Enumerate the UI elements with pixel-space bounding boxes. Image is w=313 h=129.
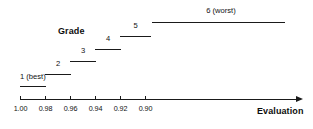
segment-line-grade-3 xyxy=(70,61,96,62)
segment-label-grade-3: 3 xyxy=(70,46,96,55)
segment-line-grade-6 xyxy=(152,22,285,23)
x-tick-label-2: 0.96 xyxy=(57,104,84,113)
x-tick-label-0: 1.00 xyxy=(7,104,34,113)
x-tick-label-1: 0.98 xyxy=(32,104,59,113)
segment-label-grade-4: 4 xyxy=(95,34,121,43)
chart-title-grade: Grade xyxy=(58,26,85,36)
x-tick-2 xyxy=(70,96,71,100)
x-tick-4 xyxy=(120,96,121,100)
x-tick-0 xyxy=(20,96,21,100)
x-tick-5 xyxy=(145,96,146,100)
segment-line-grade-1 xyxy=(20,86,46,87)
x-tick-label-4: 0.92 xyxy=(107,104,134,113)
x-axis-arrow-icon xyxy=(296,96,303,102)
x-tick-3 xyxy=(95,96,96,100)
segment-line-grade-4 xyxy=(95,49,121,50)
segment-label-grade-1: 1 (best) xyxy=(20,72,52,81)
grade-evaluation-step-chart: 6 (worst) 5 Grade 4 3 2 1 (best) 1.00 0.… xyxy=(0,0,313,129)
x-axis-title: Evaluation xyxy=(257,106,304,116)
segment-label-grade-6: 6 (worst) xyxy=(186,6,256,15)
x-axis-line xyxy=(20,99,298,100)
x-tick-label-5: 0.90 xyxy=(132,104,159,113)
x-tick-1 xyxy=(45,96,46,100)
segment-label-grade-2: 2 xyxy=(45,59,71,68)
x-tick-label-3: 0.94 xyxy=(82,104,109,113)
segment-line-grade-5 xyxy=(120,36,151,37)
segment-label-grade-5: 5 xyxy=(120,21,151,30)
